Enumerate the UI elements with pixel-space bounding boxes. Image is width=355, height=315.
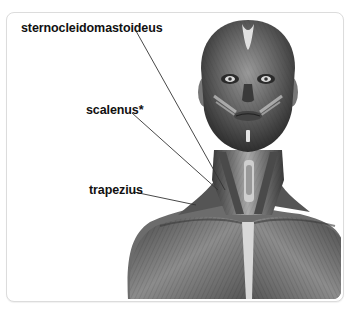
label-scalenus: scalenus* bbox=[86, 103, 143, 117]
label-trapezius: trapezius bbox=[89, 183, 143, 197]
leader-line-scalenus bbox=[132, 113, 218, 190]
label-sternocleidomastoideus: sternocleidomastoideus bbox=[21, 21, 163, 35]
leader-line-trapezius bbox=[134, 192, 196, 205]
anatomy-illustration bbox=[0, 0, 355, 315]
head bbox=[198, 20, 298, 152]
neck bbox=[212, 150, 284, 215]
